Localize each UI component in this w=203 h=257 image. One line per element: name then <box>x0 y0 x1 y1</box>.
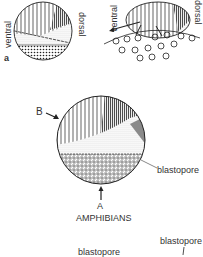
panel-a-sphere <box>10 0 80 70</box>
label-ventral-disc: ventral <box>109 5 119 32</box>
bottom-blastopore-leader <box>183 247 184 255</box>
label-B: B <box>36 106 43 117</box>
label-A: A <box>97 201 103 211</box>
label-ventral-sphere: ventral <box>3 21 13 48</box>
label-blastopore-bottom-right: blastopore <box>160 236 202 246</box>
amphibian-fate-map <box>46 95 157 200</box>
label-blastopore-bottom-left: blastopore <box>78 247 120 257</box>
caption-amphibians: AMPHIBIANS <box>76 213 132 223</box>
label-dorsal-disc: dorsal <box>193 0 203 25</box>
panel-label-a: a <box>4 53 9 63</box>
label-blastopore: blastopore <box>157 165 199 175</box>
label-dorsal-sphere: dorsal <box>77 12 87 37</box>
